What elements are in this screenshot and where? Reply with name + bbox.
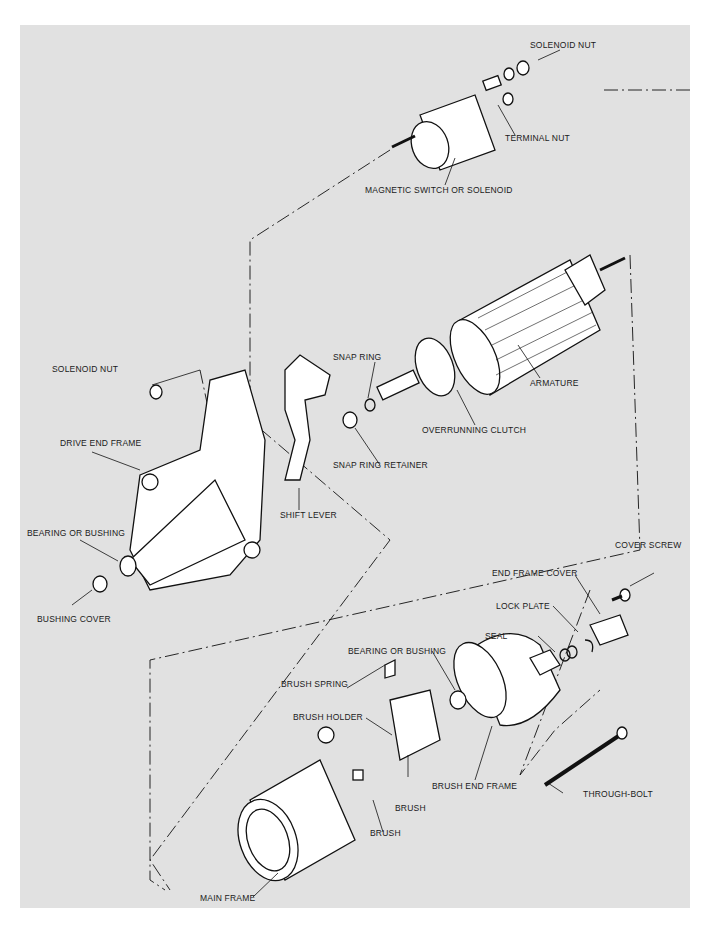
label-brush-holder: BRUSH HOLDER <box>293 712 363 722</box>
label-snap-ring: SNAP RING <box>333 352 381 362</box>
label-bearing-bushing-rear: BEARING OR BUSHING <box>348 646 446 656</box>
snap-ring-part <box>365 399 375 411</box>
label-cover-screw: COVER SCREW <box>615 540 681 550</box>
label-brush-spring: BRUSH SPRING <box>281 679 348 689</box>
label-end-frame-cover: END FRAME COVER <box>492 568 578 578</box>
main-frame-part <box>227 727 363 889</box>
label-terminal-nut: TERMINAL NUT <box>505 133 570 143</box>
label-drive-end-frame: DRIVE END FRAME <box>60 438 141 448</box>
brush-holder-part <box>390 690 440 760</box>
snap-ring-retainer-part <box>343 412 357 428</box>
label-magnetic-switch: MAGNETIC SWITCH OR SOLENOID <box>365 185 513 195</box>
through-bolt-part <box>545 727 627 785</box>
label-overrunning-clutch: OVERRUNNING CLUTCH <box>422 425 526 435</box>
shift-lever-part <box>285 355 330 480</box>
drive-end-frame-part <box>120 370 265 590</box>
solenoid-part <box>392 61 529 174</box>
overrunning-clutch-part <box>377 333 462 402</box>
cover-screw-part <box>612 589 630 601</box>
label-lock-plate: LOCK PLATE <box>496 601 550 611</box>
bushing-cover-part <box>93 576 107 592</box>
brush-spring-part <box>385 660 395 678</box>
label-snap-ring-retainer: SNAP RING RETAINER <box>333 460 428 470</box>
label-shift-lever: SHIFT LEVER <box>280 510 337 520</box>
label-main-frame: MAIN FRAME <box>200 893 255 903</box>
solenoid-nut-left-part <box>150 385 162 399</box>
label-solenoid-nut-top: SOLENOID NUT <box>530 40 596 50</box>
end-frame-cover-part <box>590 615 628 645</box>
label-solenoid-nut-left: SOLENOID NUT <box>52 364 118 374</box>
label-brush-a: BRUSH <box>395 803 426 813</box>
label-seal: SEAL <box>485 631 508 641</box>
label-bearing-bushing-front: BEARING OR BUSHING <box>27 528 125 538</box>
label-brush-b: BRUSH <box>370 828 401 838</box>
label-armature: ARMATURE <box>530 378 579 388</box>
label-bushing-cover: BUSHING COVER <box>37 614 111 624</box>
lock-plate-spring-part <box>560 640 593 661</box>
label-brush-end-frame: BRUSH END FRAME <box>432 781 517 791</box>
label-through-bolt: THROUGH-BOLT <box>583 789 653 799</box>
brush-end-frame-part <box>443 634 560 726</box>
